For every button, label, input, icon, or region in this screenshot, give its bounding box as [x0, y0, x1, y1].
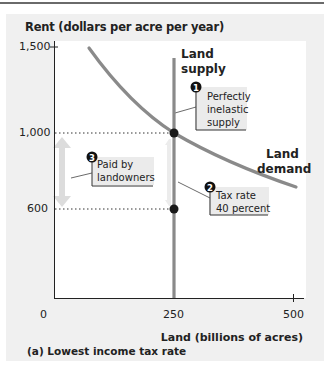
- callout-1-line2: inelastic: [207, 103, 251, 116]
- supply-label-line1: Land: [181, 47, 226, 62]
- x-tick-250: 250: [163, 308, 184, 321]
- leader-line-1: [175, 107, 196, 113]
- y-axis-title: Rent (dollars per acre per year): [25, 20, 224, 34]
- chart-graphics: 1 2 3: [0, 0, 324, 371]
- callout-3-line2: landowners: [97, 171, 155, 184]
- y-tick-1000: 1,000: [19, 126, 51, 139]
- double-arrow-landowners: [53, 137, 71, 207]
- svg-text:3: 3: [89, 153, 95, 163]
- callout-1-line3: supply: [207, 116, 251, 129]
- x-tick-0: 0: [40, 308, 47, 321]
- supply-label-line2: supply: [181, 62, 226, 77]
- y-tick-1500: 1,500: [19, 40, 51, 53]
- demand-label-line2: demand: [257, 162, 311, 177]
- supply-label: Land supply: [181, 47, 226, 77]
- callout-1-line1: Perfectly: [207, 90, 251, 103]
- figure-caption: (a) Lowest income tax rate: [27, 345, 186, 357]
- badge-3-icon: 3: [87, 152, 98, 163]
- point-after-tax-600: [170, 205, 179, 214]
- badge-2-icon: 2: [205, 182, 216, 193]
- badge-1-icon: 1: [191, 82, 202, 93]
- y-tick-600: 600: [27, 202, 48, 215]
- callout-2-line1: Tax rate: [216, 189, 270, 202]
- callout-2-text: Tax rate 40 percent: [216, 189, 270, 215]
- svg-text:2: 2: [207, 183, 213, 193]
- demand-label: Land demand: [257, 147, 311, 177]
- callout-2-line2: 40 percent: [216, 202, 270, 215]
- point-equilibrium-1000: [170, 129, 179, 138]
- callout-3-text: Paid by landowners: [97, 158, 155, 184]
- leader-line-3: [71, 173, 92, 178]
- demand-label-line1: Land: [257, 147, 311, 162]
- callout-1-text: Perfectly inelastic supply: [207, 90, 251, 129]
- x-tick-500: 500: [283, 308, 304, 321]
- svg-text:1: 1: [193, 83, 199, 93]
- double-arrow-tax: [165, 139, 171, 206]
- callout-3-line1: Paid by: [97, 158, 155, 171]
- x-axis-title: Land (billions of acres): [161, 331, 303, 344]
